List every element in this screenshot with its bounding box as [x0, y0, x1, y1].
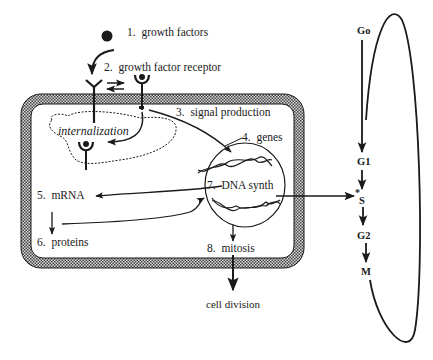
phase-g2: G2: [357, 231, 370, 242]
mrna-arrow: [96, 186, 222, 196]
label-mitosis: 8. mitosis: [207, 243, 255, 255]
label-growth-factor-receptor: 2. growth factor receptor: [104, 62, 221, 74]
label-cell-division: cell division: [206, 299, 260, 310]
protein-feedback-arrow: [62, 198, 204, 224]
phase-g1: G1: [357, 157, 370, 168]
label-signal-production: 3. signal production: [176, 107, 271, 119]
receptor-bound-icon: [135, 74, 149, 110]
label-internalization: internalization: [58, 125, 129, 137]
growth-factor-dot: [102, 31, 113, 42]
phase-go: Go: [357, 26, 370, 37]
label-mrna: 5. mRNA: [37, 190, 85, 202]
label-genes: 4. genes: [242, 132, 283, 144]
label-dna-synth: 7. DNA synth: [207, 180, 273, 192]
phase-s: S: [359, 196, 365, 207]
phase-m: M: [361, 267, 371, 278]
label-proteins: 6. proteins: [37, 237, 88, 249]
dna-helix-lower: [212, 198, 280, 211]
receptor-internalized-icon: [79, 141, 93, 170]
label-growth-factors: 1. growth factors: [127, 27, 208, 39]
cell-cycle-loop: [366, 14, 420, 342]
